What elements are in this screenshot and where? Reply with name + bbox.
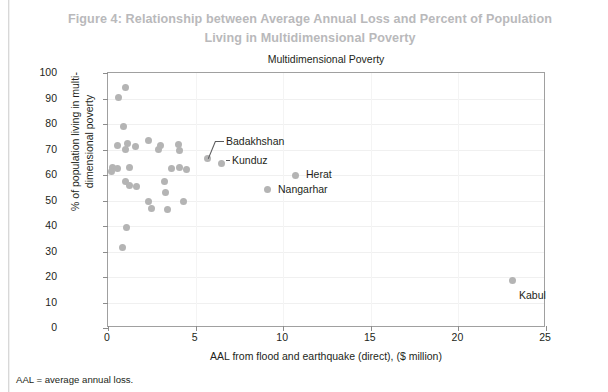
plot-area: BadakhshanKunduzHeratNangarharKabul xyxy=(107,72,545,327)
data-point xyxy=(120,123,127,130)
y-tick xyxy=(103,201,108,202)
data-point xyxy=(123,224,130,231)
data-point xyxy=(145,137,152,144)
data-point xyxy=(180,198,187,205)
leader-line-badakhshan-horizontal xyxy=(215,141,224,142)
data-point xyxy=(115,94,122,101)
x-tick-label: 5 xyxy=(180,331,210,343)
data-point xyxy=(122,146,129,153)
data-point xyxy=(108,168,115,175)
figure-title-line-2: Living in Multidimensional Poverty xyxy=(40,29,580,48)
y-tick-label: 40 xyxy=(31,219,57,231)
data-point-nangarhar xyxy=(264,186,271,193)
gridline-horizontal xyxy=(108,150,544,151)
gridline-horizontal xyxy=(108,226,544,227)
data-point xyxy=(183,166,190,173)
data-point-kunduz xyxy=(218,160,225,167)
y-tick-label: 70 xyxy=(31,143,57,155)
y-tick-label: 80 xyxy=(31,117,57,129)
gridline-vertical xyxy=(283,73,284,326)
y-tick xyxy=(103,303,108,304)
gridline-horizontal xyxy=(108,277,544,278)
gridline-horizontal xyxy=(108,124,544,125)
data-point xyxy=(176,164,183,171)
gridline-horizontal xyxy=(108,201,544,202)
data-point xyxy=(164,206,171,213)
y-tick xyxy=(103,150,108,151)
x-tick-label: 25 xyxy=(530,331,560,343)
figure-title: Figure 4: Relationship between Average A… xyxy=(40,10,580,48)
data-point xyxy=(122,84,129,91)
y-tick xyxy=(103,175,108,176)
y-tick-label: 90 xyxy=(31,92,57,104)
x-axis-title: AAL from flood and earthquake (direct), … xyxy=(107,350,545,362)
x-tick-label: 15 xyxy=(355,331,385,343)
y-tick xyxy=(103,99,108,100)
x-tick-label: 0 xyxy=(92,331,122,343)
data-point xyxy=(119,244,126,251)
data-point xyxy=(176,147,183,154)
gridline-vertical xyxy=(458,73,459,326)
point-label-badakhshan: Badakhshan xyxy=(226,135,284,147)
data-point xyxy=(126,164,133,171)
figure-title-line-1: Figure 4: Relationship between Average A… xyxy=(68,12,552,26)
page-edge-rule-secondary xyxy=(9,0,10,392)
data-point xyxy=(162,189,169,196)
gridline-horizontal xyxy=(108,252,544,253)
figure-page: Figure 4: Relationship between Average A… xyxy=(0,0,608,392)
gridline-horizontal xyxy=(108,99,544,100)
data-point xyxy=(168,165,175,172)
y-tick-label: 20 xyxy=(31,270,57,282)
gridline-vertical xyxy=(371,73,372,326)
data-point xyxy=(114,142,121,149)
y-tick xyxy=(103,124,108,125)
y-tick-label: 30 xyxy=(31,245,57,257)
data-point-kabul xyxy=(509,277,516,284)
y-tick xyxy=(103,277,108,278)
gridline-horizontal xyxy=(108,303,544,304)
data-point xyxy=(148,205,155,212)
point-label-kunduz: Kunduz xyxy=(232,154,268,166)
point-label-kabul: Kabul xyxy=(519,289,546,301)
y-tick-label: 0 xyxy=(31,321,57,333)
y-tick xyxy=(103,226,108,227)
data-point-herat xyxy=(292,172,299,179)
y-tick-label: 10 xyxy=(31,296,57,308)
data-point xyxy=(161,178,168,185)
y-tick xyxy=(103,73,108,74)
point-label-herat: Herat xyxy=(306,168,332,180)
gridline-vertical xyxy=(196,73,197,326)
chart-subtitle: Multidimensional Poverty xyxy=(107,53,545,65)
data-point xyxy=(114,165,121,172)
figure-footnote: AAL = average annual loss. xyxy=(16,374,133,385)
y-axis-title-line-1: % of population living in multi- xyxy=(69,52,83,232)
data-point xyxy=(157,142,164,149)
y-tick-label: 50 xyxy=(31,194,57,206)
y-axis-title: % of population living in multi- dimensi… xyxy=(69,52,96,232)
data-point xyxy=(133,183,140,190)
point-label-nangarhar: Nangarhar xyxy=(278,183,328,195)
y-tick xyxy=(103,252,108,253)
leader-line-kunduz-horizontal xyxy=(226,160,230,161)
x-tick-label: 20 xyxy=(442,331,472,343)
y-tick-label: 100 xyxy=(31,66,57,78)
x-tick-label: 10 xyxy=(267,331,297,343)
y-tick-label: 60 xyxy=(31,168,57,180)
y-axis-title-line-2: dimensional poverty xyxy=(82,52,96,232)
